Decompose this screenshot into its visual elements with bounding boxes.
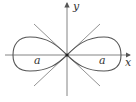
left-lobe-label: a <box>34 54 41 67</box>
diagram-canvas: y x a a <box>0 0 136 102</box>
right-lobe-label: a <box>99 54 106 67</box>
origin-point <box>65 53 68 56</box>
y-axis-label: y <box>72 0 80 13</box>
x-axis-label: x <box>125 56 132 69</box>
